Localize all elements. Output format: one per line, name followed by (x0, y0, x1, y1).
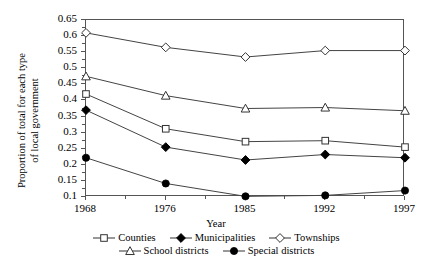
series-canvas (86, 20, 405, 197)
x-tick-label: 1985 (215, 203, 275, 214)
legend-label: Special districts (248, 244, 315, 257)
data-point (242, 193, 249, 200)
legend-symbol-open-diamond-icon (268, 232, 292, 244)
legend-label: School districts (144, 244, 209, 257)
legend-item-counties[interactable]: Counties (92, 231, 155, 244)
data-point (321, 46, 330, 55)
series-school-districts (82, 72, 410, 114)
series-line (86, 110, 405, 160)
legend-symbol-open-square-icon (92, 232, 116, 244)
data-point (241, 156, 250, 165)
y-tick-label: 0.6 (33, 29, 77, 40)
data-point (401, 46, 410, 55)
data-point (83, 91, 90, 98)
data-point (82, 154, 89, 161)
data-point (401, 153, 410, 162)
data-point (161, 43, 170, 52)
data-point (321, 150, 330, 159)
y-tick-label: 0.35 (33, 110, 77, 121)
chart-figure: Proportion of total for each type of loc… (0, 0, 432, 268)
legend-item-municipalities[interactable]: Municipalities (169, 231, 256, 244)
data-point (402, 144, 409, 151)
y-tick-label: 0.45 (33, 77, 77, 88)
series-municipalities (82, 106, 410, 165)
data-point (162, 180, 169, 187)
x-tick-label: 1976 (135, 203, 195, 214)
y-tick-label: 0.1 (33, 190, 77, 201)
x-tick-label: 1968 (55, 203, 115, 214)
data-point (322, 192, 329, 199)
legend-item-school-districts[interactable]: School districts (118, 244, 209, 257)
x-tick-label: 1992 (294, 203, 354, 214)
series-townships (82, 28, 410, 61)
data-point (161, 143, 170, 152)
data-point (241, 53, 250, 62)
y-tick-label: 0.3 (33, 126, 77, 137)
data-point (242, 138, 249, 145)
legend-label: Municipalities (195, 231, 256, 244)
chart-legend: CountiesMunicipalitiesTownships School d… (0, 231, 432, 257)
data-point (322, 137, 329, 144)
legend-symbol-open-triangle-icon (118, 245, 142, 257)
y-tick-label: 0.2 (33, 158, 77, 169)
x-axis-label: Year (0, 218, 432, 229)
legend-row-2: School districtsSpecial districts (0, 244, 432, 257)
y-tick-label: 0.15 (33, 174, 77, 185)
legend-symbol-filled-circle-icon (222, 245, 246, 257)
legend-label: Counties (118, 231, 155, 244)
legend-item-special-districts[interactable]: Special districts (222, 244, 315, 257)
legend-row-1: CountiesMunicipalitiesTownships (0, 231, 432, 244)
legend-item-townships[interactable]: Townships (268, 231, 339, 244)
y-tick-label: 0.55 (33, 45, 77, 56)
legend-label: Townships (294, 231, 339, 244)
data-point (401, 187, 408, 194)
x-tick-label: 1997 (374, 203, 432, 214)
y-tick-label: 0.5 (33, 61, 77, 72)
y-tick-label: 0.65 (33, 13, 77, 24)
legend-symbol-filled-diamond-icon (169, 232, 193, 244)
plot-area (85, 19, 404, 196)
y-tick-label: 0.4 (33, 93, 77, 104)
data-point (162, 125, 169, 132)
series-counties (83, 91, 409, 151)
y-tick-label: 0.25 (33, 142, 77, 153)
